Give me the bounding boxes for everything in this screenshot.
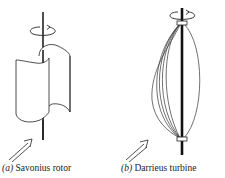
caption-b-text: Darrieus turbine <box>134 163 196 173</box>
caption-a-prefix: (a) <box>2 163 13 173</box>
caption-a-text: Savonius rotor <box>15 163 71 173</box>
savonius-rotor <box>9 12 70 162</box>
darrieus-bottom-collar <box>177 137 187 141</box>
turbine-diagram <box>0 0 225 178</box>
caption-savonius: (a) Savonius rotor <box>2 163 71 173</box>
savonius-left-bucket <box>16 58 49 122</box>
darrieus-wind-arrow-icon <box>126 140 148 162</box>
caption-darrieus: (b) Darrieus turbine <box>121 163 196 173</box>
darrieus-top-collar <box>177 21 187 25</box>
darrieus-turbine <box>126 8 200 162</box>
darrieus-blades <box>152 24 200 138</box>
savonius-wind-arrow-icon <box>9 139 32 162</box>
caption-b-prefix: (b) <box>121 163 132 173</box>
